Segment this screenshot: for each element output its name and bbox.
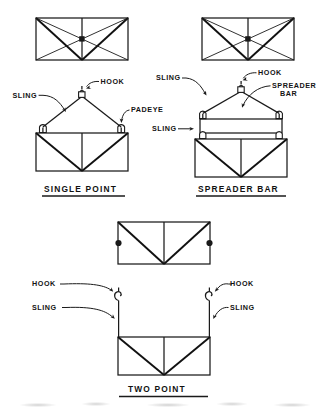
padeye-lower-right (276, 132, 282, 139)
single-point-labels: HOOK SLING PADEYE (13, 77, 164, 124)
caption-two-point: TWO POINT (119, 384, 208, 397)
hook-left (115, 288, 121, 301)
lift-point-marker-left (115, 240, 121, 246)
two-point-elevation (115, 288, 212, 376)
sling-line-right (83, 97, 121, 127)
hook-right (205, 288, 211, 301)
single-point-plan-view (36, 18, 128, 60)
sling-line-left (43, 97, 81, 127)
spreader-bar-elevation (195, 81, 287, 177)
two-point-plan-view (115, 222, 212, 264)
single-point-elevation (36, 86, 128, 171)
label-hook-right: HOOK (230, 279, 254, 288)
lift-point-marker (245, 36, 250, 41)
lift-point-marker (79, 36, 84, 41)
label-hook-left: HOOK (32, 279, 56, 288)
hook-shackle (238, 81, 244, 92)
svg-text:SINGLE POINT: SINGLE POINT (44, 184, 117, 194)
label-sling-lower: SLING (152, 124, 177, 133)
caption-spreader-bar: SPREADER BAR (196, 184, 286, 197)
two-point-labels: HOOK SLING HOOK SLING (32, 279, 255, 319)
spreader-bar-plan-view (202, 18, 294, 60)
label-sling-right: SLING (230, 303, 255, 312)
lift-point-marker-right (206, 240, 212, 246)
padeye-lower-left (200, 132, 206, 139)
spreader-bar-member (200, 119, 282, 133)
svg-text:TWO POINT: TWO POINT (128, 384, 186, 394)
label-sling-upper: SLING (156, 73, 181, 82)
rigging-arrangements-figure: HOOK SLING PADEYE (0, 0, 327, 412)
caption-single-point: SINGLE POINT (42, 184, 125, 197)
hook-shackle (79, 86, 85, 97)
label-sling-left: SLING (32, 303, 57, 312)
label-padeye: PADEYE (131, 105, 163, 114)
label-hook: HOOK (101, 77, 125, 86)
label-sling: SLING (13, 91, 38, 100)
svg-text:SPREADER BAR: SPREADER BAR (198, 184, 279, 194)
spreader-bar-labels: SLING HOOK SPREADER BAR SLING (152, 68, 317, 134)
label-hook: HOOK (258, 68, 282, 77)
figure-canvas: HOOK SLING PADEYE (0, 0, 327, 412)
label-spreader-bar-line2: BAR (280, 89, 297, 98)
